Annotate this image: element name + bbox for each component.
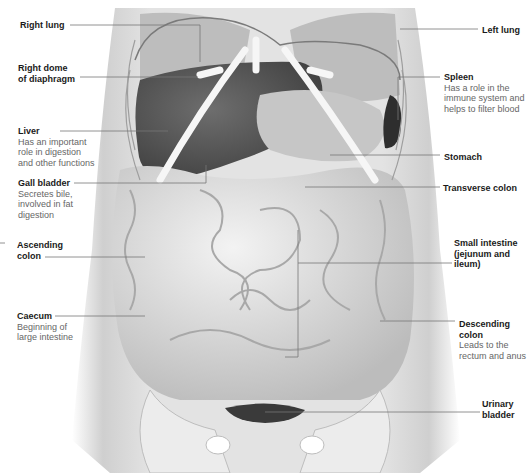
label-desc: involved in fat bbox=[18, 199, 73, 210]
label-desc: Has an important bbox=[18, 137, 95, 148]
label-desc: immune system and bbox=[444, 93, 525, 104]
label-title: bladder bbox=[482, 410, 515, 421]
label-liver: Liver Has an important role in digestion… bbox=[18, 126, 95, 168]
label-title: Stomach bbox=[444, 152, 482, 163]
label-title: Gall bladder bbox=[18, 178, 73, 189]
label-transverse-colon: Transverse colon bbox=[443, 183, 517, 194]
label-desc: Has a role in the bbox=[444, 83, 525, 94]
label-title: Left lung bbox=[482, 25, 520, 36]
label-right-dome-diaphragm: Right dome of diaphragm bbox=[18, 63, 75, 84]
label-desc: digestion bbox=[18, 210, 73, 221]
label-desc: role in digestion bbox=[18, 147, 95, 158]
label-desc: rectum and anus bbox=[459, 351, 526, 362]
label-desc: Secretes bile, bbox=[18, 189, 73, 200]
label-title: Descending bbox=[459, 319, 526, 330]
label-title: Right dome bbox=[18, 63, 75, 74]
label-title: Liver bbox=[18, 126, 95, 137]
intestines bbox=[112, 166, 414, 400]
label-title: ileum) bbox=[454, 259, 518, 270]
label-desc: Leads to the bbox=[459, 340, 526, 351]
label-title: Right lung bbox=[20, 20, 65, 31]
label-spleen: Spleen Has a role in the immune system a… bbox=[444, 72, 525, 114]
label-right-lung: Right lung bbox=[20, 20, 65, 31]
label-title: colon bbox=[17, 251, 63, 262]
label-title: Transverse colon bbox=[443, 183, 517, 194]
label-desc: large intestine bbox=[17, 332, 73, 343]
label-title: Spleen bbox=[444, 72, 525, 83]
anatomy-illustration bbox=[0, 0, 528, 473]
label-caecum: Caecum Beginning of large intestine bbox=[17, 311, 73, 343]
label-title: Caecum bbox=[17, 311, 73, 322]
label-title: Urinary bbox=[482, 399, 515, 410]
label-small-intestine: Small intestine (jejunum and ileum) bbox=[454, 238, 518, 270]
label-title: Small intestine bbox=[454, 238, 518, 249]
label-title: (jejunum and bbox=[454, 249, 518, 260]
label-desc: and other functions bbox=[18, 158, 95, 169]
label-desc: Beginning of bbox=[17, 322, 73, 333]
label-ascending-colon: Ascending colon bbox=[17, 240, 63, 261]
label-gall-bladder: Gall bladder Secretes bile, involved in … bbox=[18, 178, 73, 220]
label-descending-colon: Descending colon Leads to the rectum and… bbox=[459, 319, 526, 361]
label-title: of diaphragm bbox=[18, 74, 75, 85]
label-desc: helps to filter blood bbox=[444, 104, 525, 115]
label-title: Ascending bbox=[17, 240, 63, 251]
label-urinary-bladder: Urinary bladder bbox=[482, 399, 515, 420]
label-left-lung: Left lung bbox=[482, 25, 520, 36]
label-title: colon bbox=[459, 330, 526, 341]
label-stomach: Stomach bbox=[444, 152, 482, 163]
